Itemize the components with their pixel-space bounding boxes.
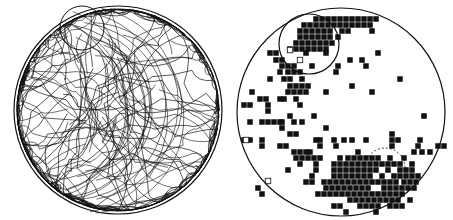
occupied-cell bbox=[375, 155, 381, 161]
occupied-cell bbox=[291, 149, 297, 155]
occupied-cell bbox=[313, 16, 319, 22]
occupied-cell bbox=[369, 28, 375, 34]
occupied-cell bbox=[303, 28, 309, 34]
occupied-cell bbox=[283, 143, 289, 149]
occupied-cell bbox=[301, 22, 307, 28]
occupied-cell bbox=[259, 119, 265, 125]
occupied-cell bbox=[389, 131, 395, 137]
occupied-cell bbox=[305, 83, 311, 89]
occupied-cell bbox=[361, 167, 367, 173]
trajectory-path bbox=[66, 12, 134, 191]
occupied-cell bbox=[313, 167, 319, 173]
occupied-cell bbox=[321, 28, 327, 34]
occupied-cell bbox=[397, 161, 403, 167]
occupied-cell bbox=[247, 119, 253, 125]
occupied-cell bbox=[329, 40, 335, 46]
occupied-cell bbox=[297, 149, 303, 155]
occupied-cell bbox=[307, 149, 313, 155]
occupied-cell bbox=[401, 155, 407, 161]
occupied-cell bbox=[353, 185, 359, 191]
occupied-cell bbox=[277, 69, 283, 75]
occupied-cell bbox=[321, 191, 327, 197]
occupied-cell bbox=[335, 63, 341, 69]
occupied-cell bbox=[329, 185, 335, 191]
occupied-cell bbox=[353, 197, 359, 203]
occupied-cell bbox=[327, 34, 333, 40]
occupied-cell bbox=[409, 161, 415, 167]
occupied-cell bbox=[349, 161, 355, 167]
occupied-cell bbox=[327, 179, 333, 185]
occupied-cell bbox=[345, 191, 351, 197]
occupied-cell bbox=[341, 137, 347, 143]
occupied-cell bbox=[401, 179, 407, 185]
occupied-cell bbox=[341, 185, 347, 191]
occupied-cell bbox=[373, 161, 379, 167]
occupied-cell bbox=[387, 191, 393, 197]
occupied-cell bbox=[363, 191, 369, 197]
occupied-cell bbox=[369, 89, 375, 95]
occupied-cell bbox=[343, 22, 349, 28]
occupied-cell bbox=[313, 22, 319, 28]
trajectory-path bbox=[86, 9, 159, 74]
occupied-cell bbox=[355, 22, 361, 28]
occupied-cell bbox=[297, 28, 303, 34]
occupied-cell bbox=[309, 28, 315, 34]
occupied-cell bbox=[287, 83, 293, 89]
occupied-cell bbox=[373, 16, 379, 22]
occupied-cell bbox=[293, 155, 299, 161]
occupied-cell bbox=[343, 167, 349, 173]
occupied-cell bbox=[265, 119, 271, 125]
occupied-cell bbox=[309, 63, 315, 69]
occupied-cell bbox=[351, 191, 357, 197]
occupied-cell bbox=[421, 113, 427, 119]
occupied-cell bbox=[369, 179, 375, 185]
occupied-cell bbox=[357, 191, 363, 197]
occupied-cell bbox=[309, 173, 315, 179]
occupied-cell bbox=[293, 40, 299, 46]
occupied-cell bbox=[339, 28, 345, 34]
occupied-cell bbox=[271, 119, 277, 125]
occupied-cell bbox=[249, 89, 255, 95]
occupied-cell bbox=[359, 197, 365, 203]
occupied-cell bbox=[303, 34, 309, 40]
occupied-cell bbox=[409, 167, 415, 173]
occupied-cell bbox=[427, 149, 433, 155]
occupied-cell bbox=[297, 89, 303, 95]
occupied-cell bbox=[297, 161, 303, 167]
occupied-cell bbox=[309, 34, 315, 40]
occupied-cell bbox=[347, 57, 353, 63]
open-cell-marker bbox=[265, 178, 271, 184]
occupied-cell bbox=[407, 197, 413, 203]
occupied-cell bbox=[391, 173, 397, 179]
open-cell-marker bbox=[243, 137, 249, 143]
occupied-cell bbox=[349, 137, 355, 143]
occupied-cell bbox=[349, 173, 355, 179]
trajectory-path bbox=[18, 52, 183, 209]
occupied-cell bbox=[337, 161, 343, 167]
occupied-cell bbox=[385, 161, 391, 167]
occupied-cell bbox=[343, 161, 349, 167]
occupied-cell bbox=[279, 125, 285, 131]
occupied-cell bbox=[379, 173, 385, 179]
occupied-cell bbox=[355, 16, 361, 22]
occupied-cell bbox=[241, 102, 247, 108]
occupied-cell bbox=[349, 16, 355, 22]
occupied-cell bbox=[311, 155, 317, 161]
trajectory-path bbox=[19, 47, 61, 88]
occupied-cell bbox=[365, 185, 371, 191]
occupied-cell bbox=[441, 143, 447, 149]
occupied-cell bbox=[399, 185, 405, 191]
occupied-cell bbox=[359, 57, 365, 63]
occupied-cell bbox=[267, 50, 273, 56]
occupied-cell bbox=[281, 76, 287, 82]
occupied-cell bbox=[331, 167, 337, 173]
occupied-cell bbox=[265, 102, 271, 108]
occupied-cell bbox=[361, 173, 367, 179]
occupied-cell bbox=[367, 167, 373, 173]
occupied-cell bbox=[273, 50, 279, 56]
occupied-cell bbox=[363, 155, 369, 161]
open-cell-marker bbox=[297, 57, 303, 63]
occupied-cell bbox=[317, 143, 323, 149]
occupied-cell bbox=[369, 191, 375, 197]
occupied-cell bbox=[347, 197, 353, 203]
